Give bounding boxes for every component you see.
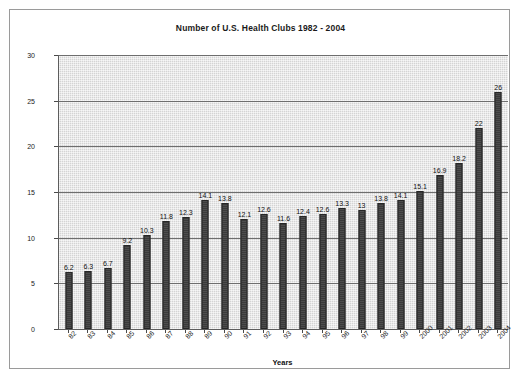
bar[interactable] <box>182 217 189 329</box>
bar-slot: 9.2 <box>118 55 138 329</box>
bar[interactable] <box>104 268 111 329</box>
bar-slot: 12.1 <box>235 55 255 329</box>
bar[interactable] <box>417 191 424 329</box>
bar-slot: 14.1 <box>196 55 216 329</box>
y-axis-tick-mark <box>54 238 58 239</box>
x-axis-ticks: 8283848586878889909192939495969798992000… <box>58 330 507 360</box>
bar[interactable] <box>260 214 267 329</box>
bar-value-label: 14.1 <box>199 192 213 199</box>
bar-slot: 10.3 <box>137 55 157 329</box>
bar-value-label: 14.1 <box>394 192 408 199</box>
bar-value-label: 6.2 <box>64 264 74 271</box>
bar-value-label: 9.2 <box>122 237 132 244</box>
bar-slot: 16.9 <box>430 55 450 329</box>
bar-value-label: 6.7 <box>103 260 113 267</box>
bar-slot: 13.3 <box>332 55 352 329</box>
bar[interactable] <box>280 223 287 329</box>
bar-value-label: 15.1 <box>413 183 427 190</box>
bar-slot: 12.3 <box>176 55 196 329</box>
bar[interactable] <box>495 92 502 329</box>
bar-value-label: 6.3 <box>83 263 93 270</box>
y-axis-tick-mark <box>54 192 58 193</box>
bar-value-label: 13.8 <box>218 195 232 202</box>
bar[interactable] <box>163 221 170 329</box>
bar[interactable] <box>300 216 307 329</box>
bar[interactable] <box>124 245 131 329</box>
bar-value-label: 13 <box>358 202 366 209</box>
y-axis-tick-label: 30 <box>11 52 35 59</box>
bar-value-label: 11.6 <box>277 215 290 222</box>
bar[interactable] <box>456 163 463 329</box>
plot-area: 6.26.36.79.210.311.812.314.113.812.112.6… <box>58 55 508 330</box>
y-axis-tick-mark <box>54 283 58 284</box>
y-axis-tick-label: 10 <box>11 234 35 241</box>
y-axis-tick-label: 20 <box>11 143 35 150</box>
bar-slot: 13 <box>352 55 372 329</box>
bar[interactable] <box>202 200 209 329</box>
y-axis-tick-label: 5 <box>11 280 35 287</box>
y-axis-tick-mark <box>54 146 58 147</box>
bar-value-label: 13.8 <box>374 195 388 202</box>
chart-figure: Number of U.S. Health Clubs 1982 - 2004 … <box>0 0 519 378</box>
bar-value-label: 12.4 <box>296 208 310 215</box>
y-axis-tick-label: 25 <box>11 97 35 104</box>
bar[interactable] <box>241 219 248 330</box>
bar-value-label: 16.9 <box>433 167 447 174</box>
bar-value-label: 12.3 <box>179 209 193 216</box>
bar-slot: 14.1 <box>391 55 411 329</box>
chart-frame: Number of U.S. Health Clubs 1982 - 2004 … <box>9 9 510 369</box>
bar-slot: 12.6 <box>254 55 274 329</box>
bar-slot: 13.8 <box>215 55 235 329</box>
bar[interactable] <box>319 214 326 329</box>
bar-value-label: 18.2 <box>452 155 466 162</box>
x-axis-tick-label: 89 <box>203 329 213 339</box>
x-axis-tick-label: 91 <box>242 329 252 339</box>
bar-slot: 6.3 <box>79 55 99 329</box>
bar[interactable] <box>65 272 72 329</box>
y-axis-tick-mark <box>54 55 58 56</box>
bar[interactable] <box>221 203 228 329</box>
bar-value-label: 10.3 <box>140 227 154 234</box>
bar-slot: 6.2 <box>59 55 79 329</box>
bar-slot: 18.2 <box>449 55 469 329</box>
bar[interactable] <box>378 203 385 329</box>
bar-slot: 15.1 <box>410 55 430 329</box>
bar[interactable] <box>143 235 150 329</box>
bar-slot: 12.6 <box>313 55 333 329</box>
bar-slot: 11.8 <box>157 55 177 329</box>
bar-slot: 12.4 <box>293 55 313 329</box>
bar-value-label: 12.6 <box>316 206 330 213</box>
chart-title: Number of U.S. Health Clubs 1982 - 2004 <box>20 23 501 33</box>
bar-slot: 22 <box>469 55 489 329</box>
y-axis-tick-label: 15 <box>11 189 35 196</box>
bar-value-label: 12.1 <box>238 211 252 218</box>
y-axis-tick-mark <box>54 101 58 102</box>
bar[interactable] <box>436 175 443 329</box>
bar[interactable] <box>339 208 346 329</box>
bar-slot: 26 <box>488 55 508 329</box>
bar-value-label: 22 <box>475 120 483 127</box>
bar-value-label: 11.8 <box>160 213 173 220</box>
bar-slot: 6.7 <box>98 55 118 329</box>
bar[interactable] <box>397 200 404 329</box>
bar[interactable] <box>475 128 482 329</box>
bar[interactable] <box>85 271 92 329</box>
x-axis-title: Years <box>58 358 507 367</box>
bar-value-label: 13.3 <box>335 200 349 207</box>
bar[interactable] <box>358 210 365 329</box>
bar-slot: 13.8 <box>371 55 391 329</box>
bar-slot: 11.6 <box>274 55 294 329</box>
bar-value-label: 12.6 <box>257 206 271 213</box>
bar-value-label: 26 <box>494 84 502 91</box>
y-axis-tick-label: 0 <box>11 326 35 333</box>
